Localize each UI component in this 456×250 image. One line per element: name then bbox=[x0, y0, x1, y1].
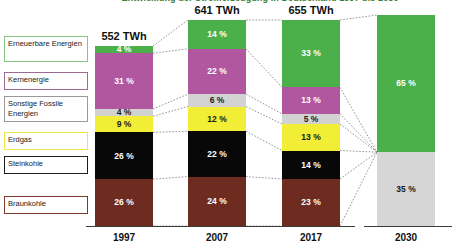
bar-1997[interactable]: 4 %31 %4 %9 %26 %26 % bbox=[95, 46, 153, 226]
bar-segment-2007-6[interactable]: 24 % bbox=[188, 177, 246, 226]
bar-segment-1997-3[interactable]: 4 % bbox=[95, 109, 153, 116]
bar-segment-2017-1[interactable]: 33 % bbox=[282, 20, 340, 87]
chart-root: Entwicklung der Stromerzeugung in Deutsc… bbox=[0, 0, 456, 250]
bar-segment-2007-3[interactable]: 6 % bbox=[188, 94, 246, 106]
segment-value-label: 12 % bbox=[207, 115, 226, 124]
segment-value-label: 33 % bbox=[301, 49, 320, 58]
segment-value-label: 35 % bbox=[396, 185, 415, 194]
segment-value-label: 5 % bbox=[304, 115, 319, 124]
segment-value-label: 22 % bbox=[207, 67, 226, 76]
bar-segment-2017-4[interactable]: 13 % bbox=[282, 124, 340, 151]
bar-2017[interactable]: 33 %13 %5 %13 %14 %23 % bbox=[282, 20, 340, 226]
bar-segment-1997-1[interactable]: 4 % bbox=[95, 46, 153, 53]
segment-value-label: 23 % bbox=[301, 198, 320, 207]
bar-segment-1997-2[interactable]: 31 % bbox=[95, 53, 153, 109]
segment-value-label: 26 % bbox=[114, 198, 133, 207]
x-axis-label-2017: 2017 bbox=[271, 232, 351, 243]
bar-segment-2007-4[interactable]: 12 % bbox=[188, 107, 246, 132]
segment-value-label: 31 % bbox=[114, 77, 133, 86]
bar-segment-1997-6[interactable]: 26 % bbox=[95, 179, 153, 226]
x-axis-line bbox=[86, 226, 452, 227]
segment-value-label: 6 % bbox=[210, 96, 225, 105]
bar-segment-2017-6[interactable]: 23 % bbox=[282, 179, 340, 226]
bar-segment-1997-5[interactable]: 26 % bbox=[95, 132, 153, 179]
bar-segment-2030-1[interactable]: 65 % bbox=[377, 15, 435, 152]
bar-segment-2007-5[interactable]: 22 % bbox=[188, 131, 246, 176]
bar-segment-2030-2[interactable]: 35 % bbox=[377, 152, 435, 226]
bar-segment-2017-3[interactable]: 5 % bbox=[282, 114, 340, 124]
segment-value-label: 14 % bbox=[207, 30, 226, 39]
segment-value-label: 24 % bbox=[207, 197, 226, 206]
segment-value-label: 9 % bbox=[117, 120, 132, 129]
segment-value-label: 14 % bbox=[301, 161, 320, 170]
x-axis-label-2030: 2030 bbox=[366, 232, 446, 243]
x-axis-gap bbox=[355, 224, 364, 229]
bar-2030[interactable]: 65 %35 % bbox=[377, 15, 435, 226]
bar-segment-2017-2[interactable]: 13 % bbox=[282, 87, 340, 114]
bar-segment-2017-5[interactable]: 14 % bbox=[282, 151, 340, 180]
segment-value-label: 13 % bbox=[301, 133, 320, 142]
segment-value-label: 26 % bbox=[114, 152, 133, 161]
bar-total-label-1997: 552 TWh bbox=[84, 30, 164, 42]
bar-total-label-2017: 655 TWh bbox=[271, 4, 351, 16]
segment-value-label: 22 % bbox=[207, 150, 226, 159]
bar-total-label-2007: 641 TWh bbox=[177, 4, 257, 16]
x-axis-label-2007: 2007 bbox=[177, 232, 257, 243]
bar-segment-2007-2[interactable]: 22 % bbox=[188, 49, 246, 94]
plot-area: 4 %31 %4 %9 %26 %26 %552 TWh199714 %22 %… bbox=[0, 0, 456, 250]
x-axis-label-1997: 1997 bbox=[84, 232, 164, 243]
bar-2007[interactable]: 14 %22 %6 %12 %22 %24 % bbox=[188, 20, 246, 226]
segment-value-label: 13 % bbox=[301, 96, 320, 105]
bar-segment-2007-1[interactable]: 14 % bbox=[188, 20, 246, 49]
bar-segment-1997-4[interactable]: 9 % bbox=[95, 116, 153, 132]
segment-value-label: 65 % bbox=[396, 79, 415, 88]
